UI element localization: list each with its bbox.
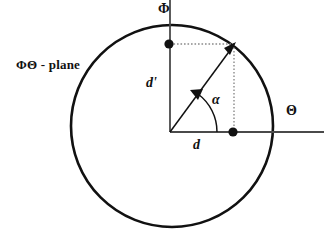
d-prime-label: d' bbox=[146, 76, 157, 90]
alpha-angle-label: α bbox=[212, 93, 220, 107]
angle-arc-arrowhead bbox=[190, 89, 203, 100]
theta-axis-point bbox=[228, 127, 237, 136]
d-label: d bbox=[193, 138, 200, 152]
theta-axis-label: Θ bbox=[286, 104, 297, 118]
unit-circle bbox=[71, 25, 273, 227]
phi-axis-point bbox=[164, 39, 173, 48]
plane-label: ΦΘ - plane bbox=[16, 58, 80, 71]
phi-axis-label: Φ bbox=[158, 2, 170, 16]
diagram-canvas bbox=[0, 0, 324, 231]
phi-theta-plane-diagram: ΦΘ - plane Φ Θ d' d α bbox=[0, 0, 324, 231]
